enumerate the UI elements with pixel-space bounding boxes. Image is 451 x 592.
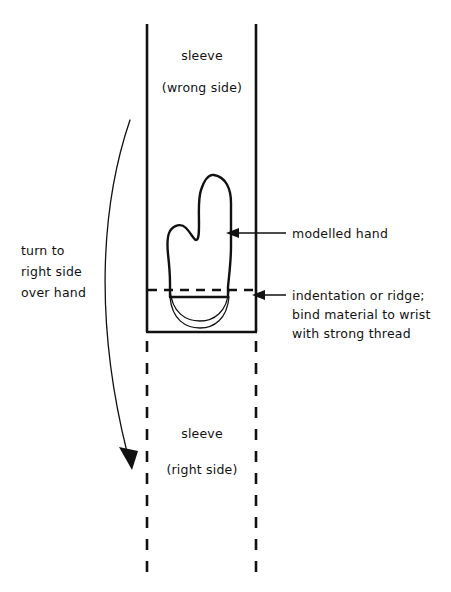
turn-arrow-icon: [119, 447, 138, 470]
turn-instruction-line3: over hand: [21, 285, 86, 300]
turn-instruction-line2: right side: [21, 264, 82, 279]
turn-instruction-line1: turn to: [21, 243, 65, 258]
sleeve-top-label-line1: sleeve: [181, 48, 223, 63]
callout-ridge-line2: bind material to wrist: [292, 307, 431, 322]
diagram-root: sleeve (wrong side) sleeve (right side) …: [0, 0, 451, 592]
callout-modelled-hand: modelled hand: [292, 226, 388, 241]
sleeve-bottom-label-line1: sleeve: [181, 426, 223, 441]
modelled-hand-outline: [167, 175, 231, 297]
callout-ridge-line3: with strong thread: [292, 326, 411, 341]
sleeve-hand-diagram: sleeve (wrong side) sleeve (right side) …: [0, 0, 451, 592]
ridge-leader-arrow-icon: [252, 290, 265, 300]
sleeve-top-label-line2: (wrong side): [162, 80, 242, 95]
callout-ridge-line1: indentation or ridge;: [292, 288, 425, 303]
turn-arrow-curve: [105, 120, 130, 452]
sleeve-bottom-label-line2: (right side): [166, 462, 237, 477]
